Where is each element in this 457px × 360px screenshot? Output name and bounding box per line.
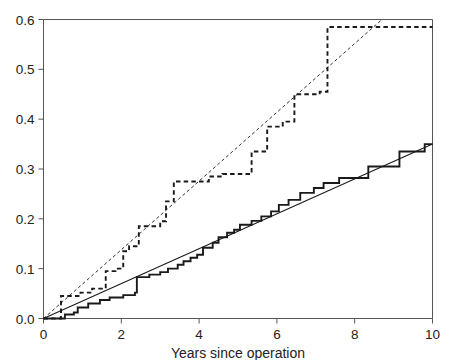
cumulative-incidence-chart: 0.00.10.20.30.40.50.60246810Years since … [0, 0, 457, 360]
y-tick-label: 0.6 [16, 13, 35, 28]
y-tick-label: 0.0 [16, 312, 35, 327]
y-tick-label: 0.1 [16, 262, 35, 277]
x-tick-label: 8 [351, 327, 359, 342]
y-tick-label: 0.5 [16, 62, 35, 77]
series-upper-step-curve [44, 27, 433, 319]
y-tick-label: 0.2 [16, 212, 35, 227]
x-axis-title: Years since operation [171, 345, 305, 360]
x-tick-label: 10 [425, 327, 440, 342]
x-tick-label: 6 [273, 327, 281, 342]
x-tick-label: 2 [118, 327, 126, 342]
x-tick-label: 0 [40, 327, 48, 342]
series-lower-reference-line [44, 144, 433, 318]
series-upper-reference-line [44, 20, 382, 319]
x-tick-label: 4 [195, 327, 203, 342]
y-tick-label: 0.4 [16, 112, 35, 127]
plot-area: 0.00.10.20.30.40.50.60246810Years since … [0, 0, 457, 360]
y-tick-label: 0.3 [16, 162, 35, 177]
